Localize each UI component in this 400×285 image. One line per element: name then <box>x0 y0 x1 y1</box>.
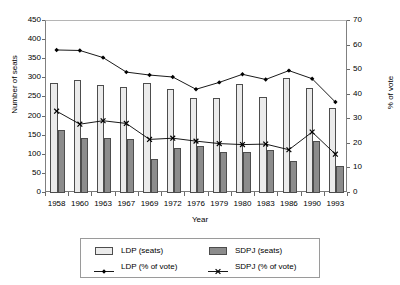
y-axis-right-tick-label: 20 <box>353 139 385 147</box>
bar-ldp-seats <box>213 98 220 193</box>
y-axis-right-title: % of vote <box>386 58 395 128</box>
x-axis-tick-mark <box>347 192 348 196</box>
bar-sdpj-seats <box>151 159 158 193</box>
y-axis-right-tick-mark <box>347 69 350 70</box>
legend-label: LDP (seats) <box>121 246 163 256</box>
y-axis-right-tick-mark <box>347 167 350 168</box>
bar-ldp-seats <box>74 80 81 193</box>
bar-ldp-seats <box>329 108 336 193</box>
chart-legend: LDP (seats)SDPJ (seats)LDP (% of vote)SD… <box>80 238 320 278</box>
bar-ldp-seats <box>306 88 313 193</box>
y-axis-left-tick-label: 250 <box>9 92 41 100</box>
y-axis-right-tick-mark <box>347 118 350 119</box>
x-axis-tick-mark <box>184 192 185 196</box>
y-axis-right-tick-label: 60 <box>353 41 385 49</box>
x-axis-title: Year <box>0 215 400 224</box>
y-axis-right-tick-mark <box>347 94 350 95</box>
legend-label: SDPJ (% of vote) <box>235 262 296 272</box>
legend-line-ldp-vote <box>94 262 114 271</box>
x-axis-tick-mark <box>138 192 139 196</box>
x-axis-tick-label: 1993 <box>319 199 351 208</box>
y-axis-right-tick-mark <box>347 20 350 21</box>
x-axis-tick-mark <box>254 192 255 196</box>
legend-line-sdpj-vote <box>208 262 228 271</box>
x-axis-tick-mark <box>115 192 116 196</box>
legend-label: LDP (% of vote) <box>121 262 177 272</box>
y-axis-right-tick-label: 0 <box>353 188 385 196</box>
x-axis-tick-mark <box>324 192 325 196</box>
y-axis-right-tick-label: 70 <box>353 16 385 24</box>
x-axis-tick-mark <box>301 192 302 196</box>
bar-ldp-seats <box>236 84 243 193</box>
x-axis-tick-mark <box>91 192 92 196</box>
y-axis-left-tick-label: 450 <box>9 16 41 24</box>
bar-ldp-seats <box>259 97 266 193</box>
y-axis-right-tick-label: 10 <box>353 163 385 171</box>
bar-ldp-seats <box>143 83 150 193</box>
bar-sdpj-seats <box>220 152 227 193</box>
y-axis-left-tick-label: 150 <box>9 131 41 139</box>
bar-sdpj-seats <box>197 146 204 193</box>
election-results-chart: Number of seats % of vote Year 050100150… <box>0 0 400 285</box>
plot-area <box>45 20 347 192</box>
y-axis-left-tick-label: 350 <box>9 54 41 62</box>
y-axis-left-tick-label: 100 <box>9 150 41 158</box>
bar-sdpj-seats <box>81 138 88 193</box>
legend-swatch-ldp-seats <box>95 247 113 255</box>
bar-ldp-seats <box>50 83 57 193</box>
legend-label: SDPJ (seats) <box>235 246 282 256</box>
x-axis-tick-mark <box>277 192 278 196</box>
bar-sdpj-seats <box>58 130 65 193</box>
bar-sdpj-seats <box>290 161 297 193</box>
x-axis-tick-mark <box>45 192 46 196</box>
y-axis-left-tick-label: 50 <box>9 169 41 177</box>
y-axis-right-tick-label: 30 <box>353 114 385 122</box>
y-axis-left-tick-label: 400 <box>9 35 41 43</box>
x-axis-tick-mark <box>161 192 162 196</box>
x-axis-tick-mark <box>208 192 209 196</box>
bar-sdpj-seats <box>267 150 274 193</box>
y-axis-left-tick-label: 300 <box>9 73 41 81</box>
y-axis-left-tick-label: 0 <box>9 188 41 196</box>
bar-ldp-seats <box>283 78 290 193</box>
y-axis-left-tick-label: 200 <box>9 112 41 120</box>
bar-ldp-seats <box>167 89 174 193</box>
y-axis-right-tick-mark <box>347 45 350 46</box>
bar-ldp-seats <box>190 98 197 193</box>
legend-swatch-sdpj-seats <box>209 247 227 255</box>
bar-sdpj-seats <box>313 141 320 193</box>
bar-sdpj-seats <box>243 152 250 193</box>
x-axis-tick-mark <box>68 192 69 196</box>
x-axis-tick-mark <box>231 192 232 196</box>
bar-sdpj-seats <box>174 148 181 193</box>
bar-sdpj-seats <box>104 138 111 193</box>
bar-ldp-seats <box>97 85 104 193</box>
y-axis-right-tick-mark <box>347 143 350 144</box>
bar-sdpj-seats <box>336 166 343 193</box>
bar-sdpj-seats <box>127 139 134 193</box>
y-axis-right-tick-label: 50 <box>353 65 385 73</box>
y-axis-right-tick-label: 40 <box>353 90 385 98</box>
bar-ldp-seats <box>120 87 127 193</box>
